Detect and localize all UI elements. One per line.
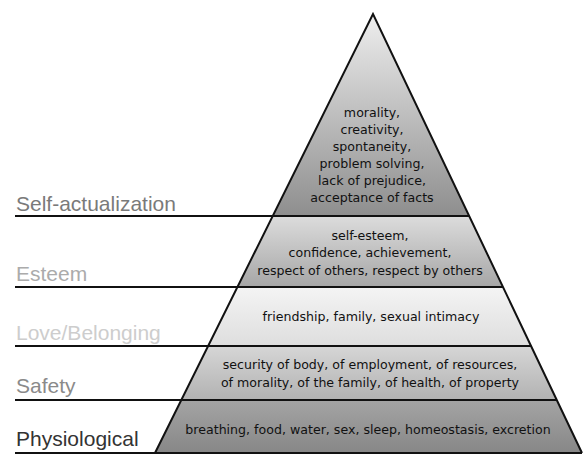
- maslow-pyramid-diagram: Self-actualization Esteem Love/Belonging…: [0, 0, 588, 473]
- svg-text:problem solving,: problem solving,: [320, 156, 425, 171]
- svg-text:confidence, achievement,: confidence, achievement,: [289, 245, 452, 260]
- tier-label-safety: Safety: [16, 374, 76, 397]
- svg-text:spontaneity,: spontaneity,: [333, 139, 412, 154]
- svg-text:morality,: morality,: [344, 105, 400, 120]
- tier-description-physiological: breathing, food, water, sex, sleep, home…: [185, 422, 550, 437]
- tier-description-love-belonging: friendship, family, sexual intimacy: [263, 309, 480, 324]
- tier-label-physiological: Physiological: [16, 427, 139, 450]
- svg-text:security of body, of employmen: security of body, of employment, of reso…: [223, 357, 518, 372]
- tier-label-love-belonging: Love/Belonging: [16, 321, 161, 344]
- svg-text:of morality, of the family, of: of morality, of the family, of health, o…: [221, 375, 520, 390]
- svg-text:breathing, food, water, sex, s: breathing, food, water, sex, sleep, home…: [185, 422, 550, 437]
- svg-text:respect of others, respect by: respect of others, respect by others: [257, 263, 482, 278]
- svg-text:self-esteem,: self-esteem,: [331, 228, 408, 243]
- svg-text:acceptance of facts: acceptance of facts: [310, 190, 433, 205]
- svg-text:creativity,: creativity,: [340, 122, 403, 137]
- tier-band-safety: [181, 346, 557, 400]
- tier-label-self-actualization: Self-actualization: [16, 192, 176, 215]
- tier-label-esteem: Esteem: [16, 262, 87, 285]
- svg-text:lack of prejudice,: lack of prejudice,: [318, 173, 426, 188]
- svg-text:friendship, family, sexual int: friendship, family, sexual intimacy: [263, 309, 480, 324]
